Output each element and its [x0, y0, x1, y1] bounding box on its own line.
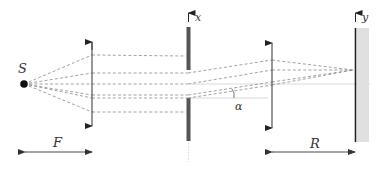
source-point	[20, 80, 28, 88]
rays-focused	[272, 60, 353, 85]
angle-label: α	[235, 100, 243, 113]
angle-arc	[232, 89, 234, 98]
rays-source-to-lens1	[24, 55, 92, 112]
slit-axis-label: x	[195, 11, 202, 24]
screen-axis-label: y	[361, 11, 369, 24]
optics-diagram: S x y α F R	[0, 0, 387, 171]
rays-diffracted	[188, 60, 272, 98]
rays-collimated	[92, 55, 188, 112]
slit-plate-bottom	[187, 98, 191, 141]
distance-label: R	[309, 136, 320, 151]
screen-band	[357, 28, 369, 142]
focal-length-label: F	[52, 135, 63, 150]
source-label: S	[18, 61, 27, 76]
slit-plate-top	[187, 27, 191, 70]
